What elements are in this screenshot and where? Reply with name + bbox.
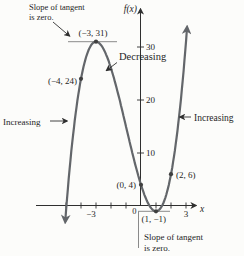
- origin-label: 0: [132, 206, 136, 216]
- decreasing-label: Decreasing: [119, 51, 167, 62]
- increasing-right-label: Increasing: [194, 113, 234, 123]
- point-label-neg4-24: (−4, 24): [48, 76, 77, 86]
- tangent-zero-bottom-text-line2: is zero.: [144, 243, 170, 253]
- x-axis-label: x: [199, 204, 205, 214]
- point-label-neg3-31: (−3, 31): [78, 28, 107, 38]
- data-point: [169, 172, 173, 176]
- data-point: [94, 40, 98, 44]
- data-point: [79, 77, 83, 81]
- x-tick-label: −3: [86, 209, 96, 219]
- tangent-zero-top-arrow: [53, 22, 70, 36]
- point-label-0-4: (0, 4): [117, 180, 137, 190]
- y-axis-label: f(x): [124, 4, 137, 15]
- tangent-zero-top-text-line1: Slope of tangent: [29, 2, 85, 12]
- point-label-1-neg1: (1, −1): [142, 214, 167, 224]
- y-tick-label: 20: [146, 95, 156, 105]
- increasing-left-label: Increasing: [3, 117, 41, 127]
- y-tick-label: 10: [146, 148, 156, 158]
- tangent-zero-bottom-text-line1: Slope of tangent: [144, 232, 203, 242]
- figure-canvas: 102030−33 (−4, 24) (−3, 31) (0, 4) (2, 6…: [0, 0, 244, 256]
- data-point: [139, 183, 143, 187]
- point-label-2-6: (2, 6): [176, 170, 196, 180]
- tangent-zero-top-text-line2: is zero.: [29, 12, 54, 22]
- axis-tick-labels: 102030−33: [86, 42, 189, 218]
- x-tick-label: 3: [184, 209, 189, 219]
- function-graph: 102030−33 (−4, 24) (−3, 31) (0, 4) (2, 6…: [0, 0, 244, 256]
